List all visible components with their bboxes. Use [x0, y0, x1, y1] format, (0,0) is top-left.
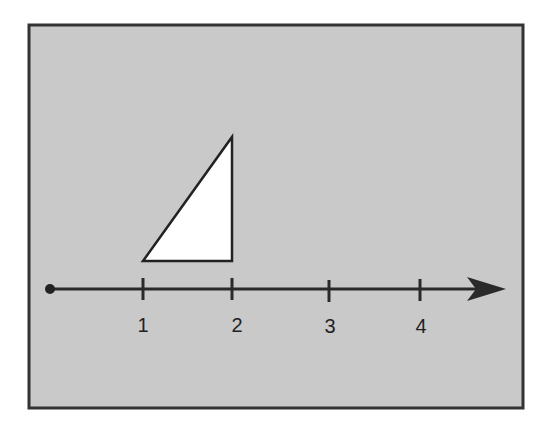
tick-label-2: 2	[231, 314, 242, 336]
start-dot-icon	[45, 284, 55, 294]
diagram-svg: 1 2 3 4	[0, 0, 537, 425]
tick-label-3: 3	[324, 315, 335, 337]
diagram-canvas: 1 2 3 4	[0, 0, 537, 425]
diagram-frame	[29, 25, 523, 408]
tick-label-4: 4	[415, 315, 426, 337]
tick-label-1: 1	[137, 314, 148, 336]
